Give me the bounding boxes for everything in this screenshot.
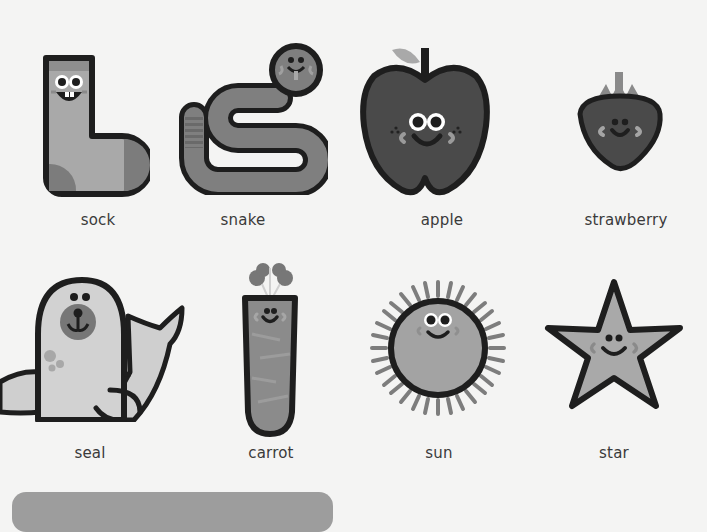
word-label-star: star xyxy=(554,444,674,462)
word-label-snake: snake xyxy=(183,211,303,229)
strawberry-icon xyxy=(570,70,670,180)
word-label-apple: apple xyxy=(382,211,502,229)
word-label-sock: sock xyxy=(38,211,158,229)
apple-icon xyxy=(358,42,518,202)
seal-icon xyxy=(0,272,195,422)
word-label-sun: sun xyxy=(379,444,499,462)
word-label-carrot: carrot xyxy=(211,444,331,462)
word-label-strawberry: strawberry xyxy=(566,211,686,229)
word-label-seal: seal xyxy=(30,444,150,462)
sock-icon xyxy=(40,52,150,202)
sun-icon xyxy=(368,278,508,418)
star-icon xyxy=(544,276,684,412)
snake-icon xyxy=(178,40,328,195)
bottom-banner xyxy=(12,492,333,532)
carrot-icon xyxy=(240,262,300,440)
